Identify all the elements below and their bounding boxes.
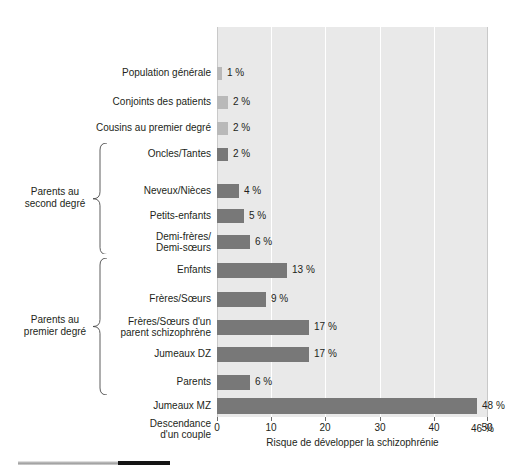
bar-value-label: 13 % <box>292 265 315 275</box>
bar <box>217 292 266 307</box>
bar-value-label: 2 % <box>233 97 250 107</box>
x-tick-label-50: 50 <box>481 422 492 434</box>
rule-segment-black <box>118 461 170 465</box>
x-tick-mark-0 <box>217 417 218 421</box>
x-tick-mark-10 <box>271 417 272 421</box>
group-2: Parents au premier degré <box>0 258 117 395</box>
bar-value-label: 2 % <box>233 123 250 133</box>
chart-figure: Population généraleConjoints des patient… <box>0 0 510 470</box>
bottom-decorative-rule <box>18 461 170 465</box>
bar <box>217 347 309 362</box>
x-tick-label-40: 40 <box>428 422 439 434</box>
bar-value-label: 17 % <box>314 349 337 359</box>
rule-segment-gray <box>18 461 118 465</box>
bar-value-label: 6 % <box>255 377 272 387</box>
bar <box>217 320 309 335</box>
bar <box>217 67 222 80</box>
x-tick-label-30: 30 <box>374 422 385 434</box>
x-tick-mark-50 <box>487 417 488 421</box>
bar-row <box>217 122 488 135</box>
x-tick-mark-20 <box>325 417 326 421</box>
x-tick-mark-30 <box>380 417 381 421</box>
bar <box>217 398 477 414</box>
bar-row <box>217 67 488 80</box>
bar <box>217 96 228 109</box>
category-label: Descendance d'un couple <box>0 418 211 441</box>
bar-value-label: 6 % <box>255 237 272 247</box>
category-label: Population générale <box>0 67 211 79</box>
group-1: Parents au second degré <box>0 143 117 255</box>
bar-value-label: 5 % <box>249 211 266 221</box>
bar-row <box>217 347 488 362</box>
bar-row <box>217 292 488 307</box>
bar <box>217 122 228 135</box>
bar <box>217 148 228 161</box>
plot-area <box>217 27 488 417</box>
bar-value-label: 2 % <box>233 149 250 159</box>
bar <box>217 375 250 390</box>
bar <box>217 184 239 198</box>
group-label: Parents au premier degré <box>7 314 103 338</box>
bar-row <box>217 398 488 414</box>
bar <box>217 209 244 223</box>
bar-row <box>217 263 488 278</box>
category-label: Jumeaux MZ <box>0 400 211 412</box>
category-label: Cousins au premier degré <box>0 122 211 134</box>
x-axis-title: Risque de développer la schizophrénie <box>217 437 488 448</box>
x-tick-label-20: 20 <box>319 422 330 434</box>
x-axis: 01020304050 Risque de développer la schi… <box>217 417 488 453</box>
bar-value-label: 4 % <box>244 186 261 196</box>
x-tick-label-0: 0 <box>214 422 220 434</box>
bar-row <box>217 96 488 109</box>
group-label: Parents au second degré <box>7 186 103 210</box>
bar-value-label: 1 % <box>227 68 244 78</box>
bar-value-label: 9 % <box>271 294 288 304</box>
bar-row <box>217 320 488 335</box>
bar <box>217 263 287 278</box>
category-label: Conjoints des patients <box>0 96 211 108</box>
bar-value-label: 48 % <box>482 401 505 411</box>
x-tick-mark-40 <box>434 417 435 421</box>
bar <box>217 235 250 249</box>
bar-value-label: 17 % <box>314 322 337 332</box>
bar-row <box>217 148 488 161</box>
x-tick-label-10: 10 <box>265 422 276 434</box>
